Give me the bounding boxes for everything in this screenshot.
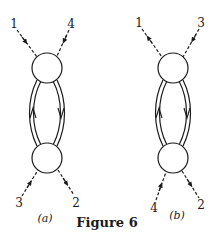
vertex-top-a (32, 53, 62, 83)
external-line-1-a (17, 30, 37, 57)
label-4-b: 4 (150, 202, 158, 214)
diagram-a (17, 30, 74, 196)
external-line-2-b (182, 171, 199, 198)
sublabel-b: (b) (169, 210, 185, 221)
label-1-a: 1 (10, 18, 18, 30)
internal-line-right-b (179, 80, 191, 146)
external-line-1-b (142, 29, 162, 57)
internal-line-right-a (53, 80, 65, 146)
external-line-2-a (58, 170, 74, 195)
label-2-a: 2 (72, 197, 80, 209)
diagram-b (142, 29, 199, 200)
vertex-bottom-b (158, 143, 188, 173)
figure-6: 1 4 3 2 (a) 1 3 4 2 (b) Figure 6 (0, 0, 213, 236)
external-line-3-a (22, 170, 38, 196)
external-line-3-b (183, 29, 199, 57)
external-line-4-b (156, 172, 166, 200)
internal-line-left-b (156, 80, 168, 146)
label-4-a: 4 (67, 18, 75, 30)
internal-line-left-a (30, 80, 42, 146)
label-3-b: 3 (197, 17, 205, 29)
diagram-canvas (0, 0, 213, 236)
sublabel-a: (a) (37, 213, 52, 224)
external-line-4-a (57, 30, 69, 56)
label-1-b: 1 (135, 17, 143, 29)
vertex-top-b (158, 53, 188, 83)
figure-caption: Figure 6 (76, 216, 137, 229)
vertex-bottom-a (32, 143, 62, 173)
label-3-a: 3 (15, 197, 23, 209)
label-2-b: 2 (197, 199, 205, 211)
